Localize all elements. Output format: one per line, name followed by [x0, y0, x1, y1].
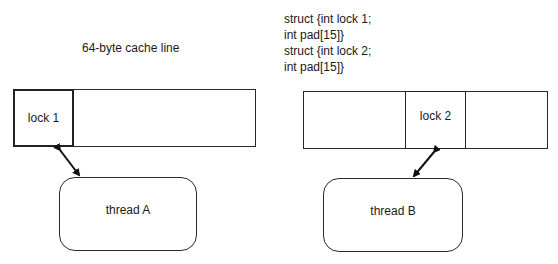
arrows: [0, 0, 558, 264]
double-arrow-icon: [60, 150, 79, 175]
double-arrow-icon: [414, 152, 434, 176]
